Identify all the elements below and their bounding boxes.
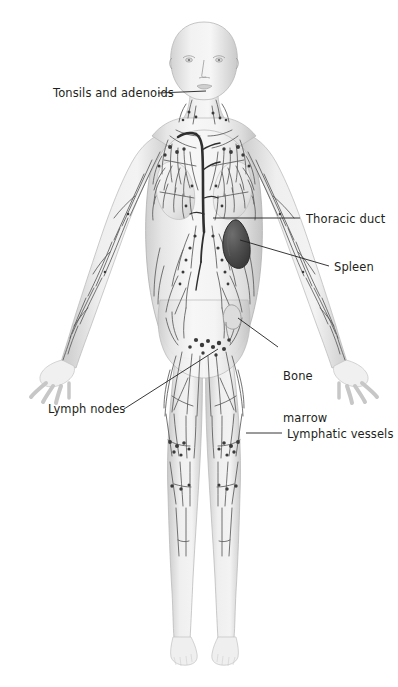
label-thoracic-duct: Thoracic duct bbox=[306, 212, 385, 226]
anatomy-figure bbox=[0, 0, 398, 687]
label-lymphatic-vessels: Lymphatic vessels bbox=[287, 427, 394, 441]
label-spleen: Spleen bbox=[334, 260, 374, 274]
label-bone-marrow-line2: marrow bbox=[283, 411, 327, 425]
label-bone-marrow-line1: Bone bbox=[283, 369, 327, 383]
left-foot-shape bbox=[212, 637, 239, 665]
label-tonsils-and-adenoids: Tonsils and adenoids bbox=[53, 86, 174, 100]
right-foot-shape bbox=[171, 637, 198, 665]
left-hand-shape bbox=[333, 360, 377, 403]
right-hand-shape bbox=[31, 360, 75, 403]
lymphatic-system-illustration: Tonsils and adenoids Thoracic duct Splee… bbox=[0, 0, 398, 687]
right-leg-shape bbox=[167, 352, 202, 640]
label-lymph-nodes: Lymph nodes bbox=[48, 402, 125, 416]
left-leg-shape bbox=[206, 352, 241, 640]
